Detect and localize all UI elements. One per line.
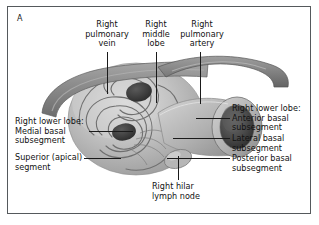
label-lateral-basal-subsegment: Lateral basal subsegment (232, 134, 312, 153)
figure-panel: A (0, 0, 319, 225)
leader-anterior-basal-subsegment (196, 118, 230, 119)
label-right-pulmonary-artery: Right pulmonary artery (173, 20, 231, 49)
label-right-pulmonary-vein: Right pulmonary vein (76, 20, 138, 49)
leader-right-pulmonary-artery (200, 52, 201, 104)
label-right-hilar-lymph-node: Right hilar lymph node (152, 182, 222, 201)
label-medial-basal-subsegment: Right lower lobe: Medial basal subsegmen… (15, 117, 93, 146)
leader-right-middle-lobe (156, 52, 157, 103)
leader-medial-basal-subsegment (89, 131, 133, 132)
leader-lateral-basal-subsegment (173, 138, 230, 139)
leader-right-pulmonary-vein (107, 52, 108, 94)
label-posterior-basal-subsegment: Posterior basal subsegment (232, 154, 312, 173)
label-superior-apical-segment: Superior (apical) segment (15, 153, 95, 172)
leader-posterior-basal-subsegment (167, 158, 230, 159)
leader-right-hilar-lymph-node (178, 156, 179, 180)
label-anterior-basal-subsegment: Right lower lobe: Anterior basal subsegm… (232, 104, 312, 133)
